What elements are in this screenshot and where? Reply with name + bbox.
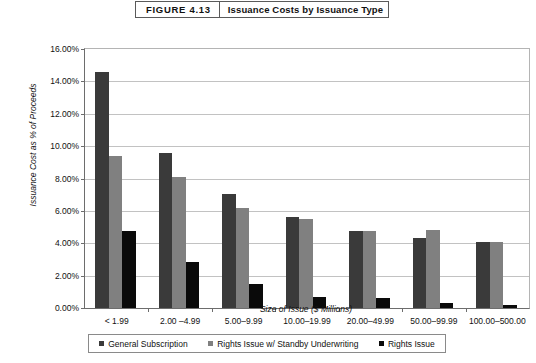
x-axis-title: Size of Issue ($ Millions) — [84, 304, 528, 314]
legend-swatch-icon — [99, 341, 104, 346]
bar-group — [349, 49, 390, 308]
y-tick-label: 12.00% — [50, 110, 79, 119]
legend-swatch-icon — [379, 341, 384, 346]
legend-label: General Subscription — [108, 339, 187, 349]
legend-label: Rights Issue w/ Standby Underwriting — [217, 339, 358, 349]
figure-title-label: Issuance Costs by Issuance Type — [228, 4, 383, 15]
x-tick-label: 10.00–19.99 — [283, 316, 330, 326]
y-tick-label: 4.00% — [55, 239, 79, 248]
x-tick-label: < 1.99 — [105, 316, 129, 326]
legend-item[interactable]: Rights Issue w/ Standby Underwriting — [208, 339, 358, 349]
bar — [413, 238, 427, 308]
bar-group — [159, 49, 200, 308]
bar — [490, 242, 504, 308]
y-tick-label: 16.00% — [50, 45, 79, 54]
figure-number-label: FIGURE 4.13 — [136, 4, 211, 15]
y-axis-title: Issuance Cost as % of Proceeds — [28, 50, 38, 240]
y-tick-label: 0.00% — [55, 304, 79, 313]
bars-layer — [85, 49, 529, 308]
y-tick-label: 2.00% — [55, 271, 79, 280]
bar — [286, 217, 300, 308]
bar — [186, 262, 200, 308]
y-tick-label: 6.00% — [55, 207, 79, 216]
legend-item[interactable]: Rights Issue — [379, 339, 435, 349]
bar — [95, 72, 109, 308]
bar — [159, 153, 173, 308]
y-tick-label: 10.00% — [50, 142, 79, 151]
title-divider — [219, 1, 220, 18]
y-tick-label: 14.00% — [50, 77, 79, 86]
bar — [426, 230, 440, 308]
bar — [299, 219, 313, 308]
bar — [363, 231, 377, 308]
bar — [476, 242, 490, 308]
x-tick-label: 50.00–99.99 — [410, 316, 457, 326]
bar-group — [286, 49, 327, 308]
legend-item[interactable]: General Subscription — [99, 339, 187, 349]
bar — [122, 231, 136, 308]
bar — [109, 156, 123, 308]
x-tick-label: 2.00 –4.99 — [160, 316, 200, 326]
chart-legend: General SubscriptionRights Issue w/ Stan… — [88, 334, 446, 353]
plot-area: 0.00%2.00%4.00%6.00%8.00%10.00%12.00%14.… — [84, 48, 530, 309]
bar-group — [413, 49, 454, 308]
bar-group — [476, 49, 517, 308]
bar-group — [95, 49, 136, 308]
bar — [172, 177, 186, 308]
y-tick-label: 8.00% — [55, 174, 79, 183]
bar — [236, 208, 250, 308]
bar-chart: Issuance Cost as % of Proceeds 0.00%2.00… — [0, 22, 536, 332]
figure-title-bar: FIGURE 4.13 Issuance Costs by Issuance T… — [135, 1, 389, 18]
legend-label: Rights Issue — [388, 339, 435, 349]
bar-group — [222, 49, 263, 308]
bar — [222, 194, 236, 308]
x-tick-label: 5.00–9.99 — [225, 316, 263, 326]
legend-swatch-icon — [208, 341, 213, 346]
bar — [349, 231, 363, 308]
x-tick-label: 100.00–500.00 — [469, 316, 526, 326]
x-tick-label: 20.00–49.99 — [347, 316, 394, 326]
